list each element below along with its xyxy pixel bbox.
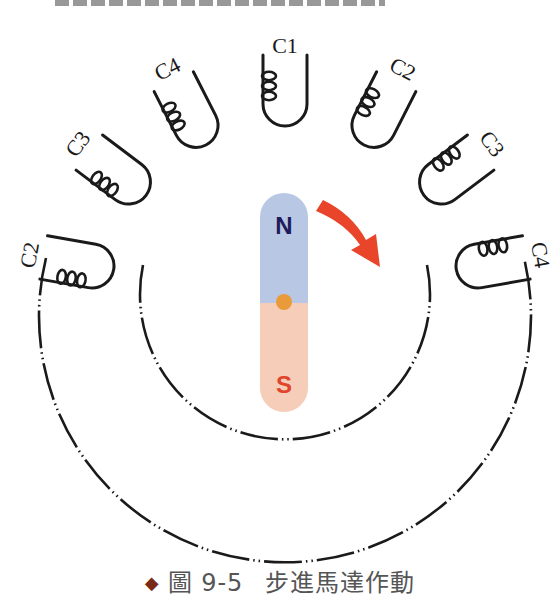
coil-label: C2	[15, 240, 44, 270]
coil-label: C4	[526, 240, 555, 270]
coil-label: C1	[272, 33, 298, 58]
north-pole	[260, 193, 308, 303]
south-label: S	[276, 371, 292, 398]
coil-c2-left	[40, 236, 118, 293]
rotation-arrow-icon	[316, 200, 380, 267]
pivot-dot	[276, 294, 292, 310]
figure-number: 圖 9-5	[168, 569, 244, 597]
north-label: N	[275, 212, 292, 239]
coil-c1-top	[262, 55, 307, 126]
figure-title: 步進馬達作動	[265, 569, 415, 597]
coil-label: C3	[60, 126, 95, 162]
figure-caption: ◆圖 9-5步進馬達作動	[0, 563, 560, 598]
coil-c4-right	[452, 235, 530, 292]
stepper-motor-diagram: C2 C3 C4 C1 C2 C3 C4 N S	[0, 0, 560, 603]
rotor-magnet: N S	[260, 193, 308, 412]
diamond-bullet-icon: ◆	[145, 572, 160, 593]
coil-label: C3	[475, 126, 510, 162]
coil-label: C2	[386, 52, 420, 86]
coil-label: C4	[150, 52, 184, 86]
